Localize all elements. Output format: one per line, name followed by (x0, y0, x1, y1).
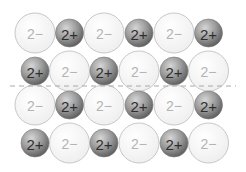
cation-charge-label: 2+ (26, 136, 43, 153)
anion-charge-label: 2− (27, 98, 43, 114)
cation-charge-label: 2+ (200, 26, 217, 43)
anion-charge-label: 2− (131, 136, 147, 152)
cation-charge-label: 2+ (200, 98, 217, 115)
cation-charge-label: 2+ (61, 26, 78, 43)
anion-ion: 2− (84, 13, 124, 53)
cation-ion: 2+ (195, 91, 223, 119)
cation-ion: 2+ (195, 19, 223, 47)
cation-charge-label: 2+ (130, 26, 147, 43)
anion-ion: 2− (189, 51, 229, 91)
anion-charge-label: 2− (166, 98, 182, 114)
anion-ion: 2− (50, 123, 90, 163)
cation-charge-label: 2+ (165, 136, 182, 153)
cation-ion: 2+ (90, 129, 118, 157)
anion-charge-label: 2− (62, 64, 78, 80)
ionic-lattice-diagram: 2−2−2−2−2−2−2−2−2−2−2−2− 2+2+2+2+2+2+2+2… (0, 0, 246, 172)
anion-charge-label: 2− (131, 64, 147, 80)
cation-ion: 2+ (90, 57, 118, 85)
anion-charge-label: 2− (96, 98, 112, 114)
anion-charge-label: 2− (201, 136, 217, 152)
cation-charge-label: 2+ (95, 136, 112, 153)
anion-ion: 2− (119, 51, 159, 91)
cation-ion: 2+ (21, 129, 49, 157)
anion-ion: 2− (119, 123, 159, 163)
cation-charge-label: 2+ (130, 98, 147, 115)
cation-charge-label: 2+ (165, 64, 182, 81)
anion-ion: 2− (154, 13, 194, 53)
cation-charge-label: 2+ (26, 64, 43, 81)
cation-ion: 2+ (125, 19, 153, 47)
anion-ion: 2− (15, 85, 55, 125)
cation-ion: 2+ (21, 57, 49, 85)
anion-ion: 2− (154, 85, 194, 125)
cation-ion: 2+ (160, 57, 188, 85)
anion-charge-label: 2− (96, 26, 112, 42)
cation-ion: 2+ (56, 91, 84, 119)
cation-ion: 2+ (56, 19, 84, 47)
anion-ion: 2− (50, 51, 90, 91)
anion-charge-label: 2− (27, 26, 43, 42)
anion-charge-label: 2− (201, 64, 217, 80)
anion-ion: 2− (15, 13, 55, 53)
cation-ion: 2+ (125, 91, 153, 119)
anion-ion: 2− (189, 123, 229, 163)
anion-charge-label: 2− (166, 26, 182, 42)
cation-charge-label: 2+ (61, 98, 78, 115)
anion-ion: 2− (84, 85, 124, 125)
cation-charge-label: 2+ (95, 64, 112, 81)
cation-ion: 2+ (160, 129, 188, 157)
anion-charge-label: 2− (62, 136, 78, 152)
